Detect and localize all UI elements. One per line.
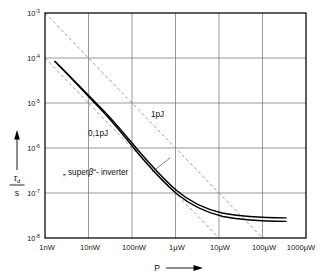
- x-tick-label-10uW: 10µW: [210, 243, 231, 252]
- annotation-1pj: 1pJ: [151, 110, 164, 119]
- x-tick-label-1uW: 1µW: [169, 243, 186, 252]
- figure-container: 10-3 10-4 10-5 10-6 10-7 10-8 1nW 10nW 1…: [0, 0, 325, 280]
- x-tick-label-1000uW: 1000µW: [287, 243, 316, 252]
- x-tick-label-100uW: 100µW: [252, 243, 277, 252]
- chart-svg: 10-3 10-4 10-5 10-6 10-7 10-8 1nW 10nW 1…: [0, 0, 325, 280]
- x-tick-label-10nW: 10nW: [80, 243, 101, 252]
- annotation-0.1pj: 0,1pJ: [88, 129, 108, 138]
- y-axis-label-denominator: s: [15, 188, 19, 198]
- x-axis-tick-labels: 1nW 10nW 100nW 1µW 10µW 100µW 1000µW: [39, 243, 316, 252]
- x-tick-label-100nW: 100nW: [122, 243, 147, 252]
- annotation-super-beta-inverter: „ superβ“- inverter: [63, 168, 128, 177]
- x-axis-label: P: [154, 263, 160, 273]
- x-tick-label-1nW: 1nW: [39, 243, 55, 252]
